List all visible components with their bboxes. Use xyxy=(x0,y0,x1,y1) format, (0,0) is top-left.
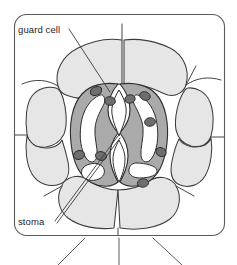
stoma-diagram-svg: guard cell stoma xyxy=(0,0,237,265)
label-stoma: stoma xyxy=(18,216,45,227)
epidermal-cell-right-upper xyxy=(175,88,213,147)
epidermal-cell-left-upper xyxy=(26,87,66,147)
label-guard-cell: guard cell xyxy=(18,24,60,35)
stoma-diagram-figure: guard cell stoma xyxy=(0,0,237,265)
vacuole-left-lower xyxy=(81,163,104,180)
